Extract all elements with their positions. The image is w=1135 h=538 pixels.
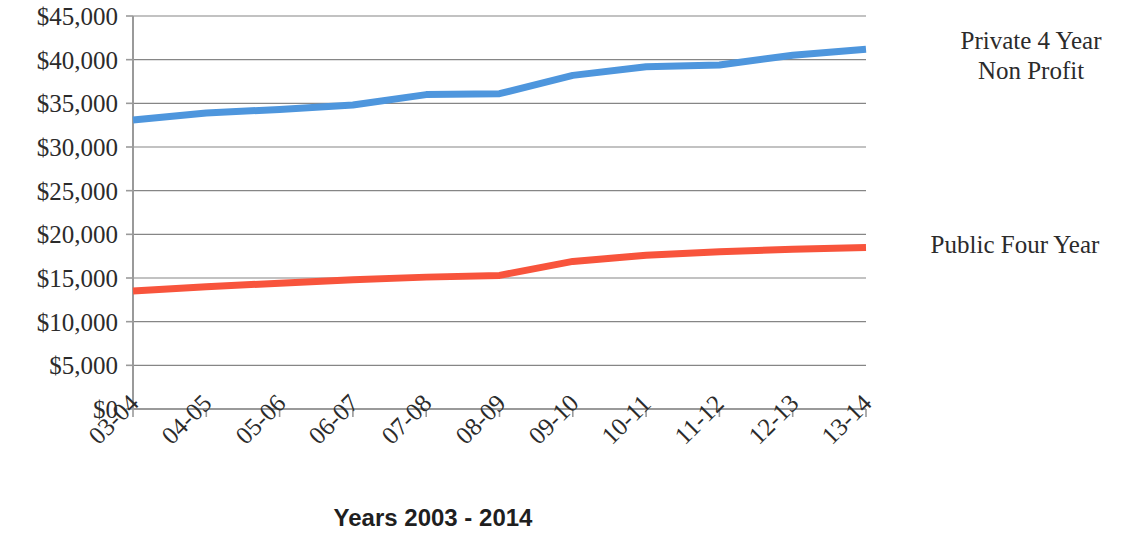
- x-axis-tick-label: 04-05: [157, 390, 216, 449]
- x-axis-tick-label: 03-04: [84, 390, 143, 449]
- chart-page: $0$5,000$10,000$15,000$20,000$25,000$30,…: [0, 0, 1135, 538]
- x-axis-tick-label: 13-14: [817, 390, 876, 449]
- x-axis-tick-label: 10-11: [597, 390, 655, 448]
- legend-label-public-four-year: Public Four Year: [895, 230, 1135, 260]
- x-axis-tick-label: 11-12: [670, 390, 728, 448]
- x-axis-tick-label: 09-10: [524, 390, 583, 449]
- x-axis-tick-label: 07-08: [377, 390, 436, 449]
- x-axis-tick-label: 08-09: [451, 390, 510, 449]
- x-axis-title: Years 2003 - 2014: [0, 504, 866, 532]
- x-axis-tick-label: 05-06: [231, 390, 290, 449]
- legend-label-private-4-year-non-profit: Private 4 Year Non Profit: [931, 26, 1131, 85]
- x-axis-tick-label: 06-07: [304, 390, 363, 449]
- x-axis-tick-label: 12-13: [744, 390, 803, 449]
